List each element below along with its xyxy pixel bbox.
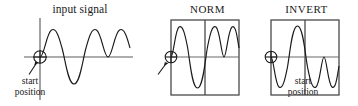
start-position-arrow bbox=[29, 61, 39, 74]
panel-input-signal: input signal start position bbox=[0, 0, 160, 106]
start-position-marker-norm bbox=[165, 51, 177, 63]
invert-plot bbox=[255, 0, 358, 106]
start-position-label-input: start position bbox=[2, 76, 58, 97]
panel-norm: NORM start position bbox=[160, 0, 255, 106]
panel-invert: INVERT bbox=[255, 0, 358, 106]
start-label-line-1: start bbox=[22, 76, 38, 86]
waveform-diagram: input signal start position bbox=[0, 0, 358, 106]
start-label-line-2: position bbox=[15, 87, 46, 97]
start-position-marker-invert bbox=[265, 51, 277, 63]
norm-plot bbox=[160, 0, 255, 106]
start-position-arrow-norm bbox=[158, 62, 168, 75]
